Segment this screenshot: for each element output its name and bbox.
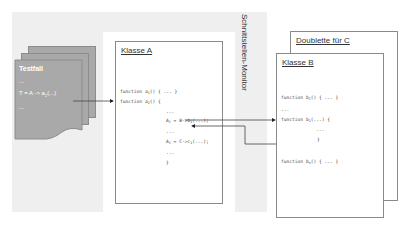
arrow-b-return-to-a — [192, 126, 276, 144]
arrows-layer — [0, 0, 412, 239]
